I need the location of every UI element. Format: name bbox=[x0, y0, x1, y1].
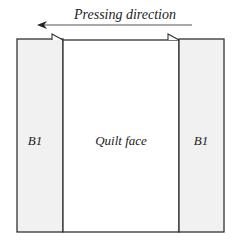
quilt-pressing-diagram: Pressing direction B1 Quilt face B1 bbox=[0, 0, 233, 247]
left-seam-flap-icon bbox=[52, 34, 63, 40]
pressing-direction-label: Pressing direction bbox=[73, 7, 176, 22]
pressing-direction-arrow-icon bbox=[37, 21, 192, 29]
right-seam-flap-icon bbox=[168, 34, 179, 40]
right-border-label: B1 bbox=[194, 133, 208, 148]
left-border-label: B1 bbox=[28, 133, 42, 148]
quilt-face-label: Quilt face bbox=[95, 133, 147, 148]
